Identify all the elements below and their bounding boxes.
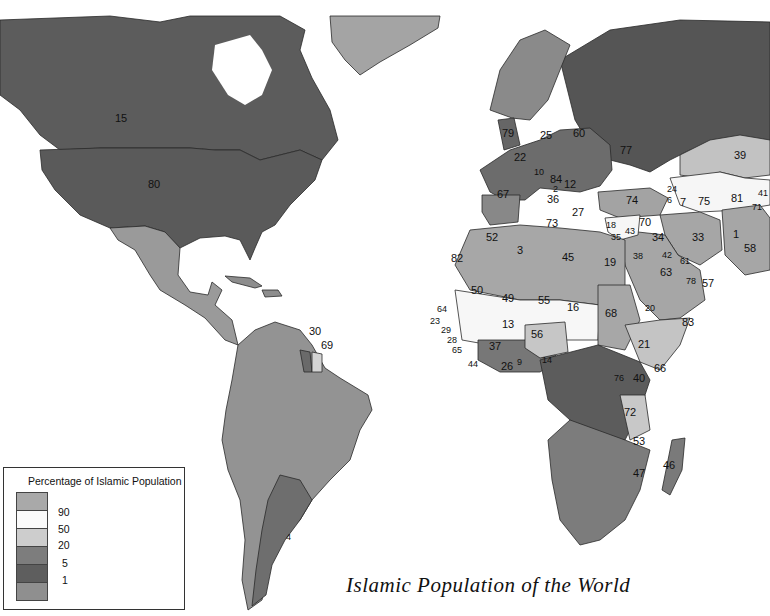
label-malawi: 47 (633, 467, 645, 479)
label-western-sahara: 82 (451, 252, 463, 264)
label-albania: 2 (553, 184, 558, 194)
label-togo: 9 (517, 357, 522, 367)
label-lebanon: 35 (611, 232, 621, 242)
label-algeria: 3 (517, 244, 523, 256)
label-turkey: 74 (626, 194, 638, 206)
label-trinidad: 30 (309, 325, 321, 337)
label-bulgaria: 12 (564, 178, 576, 190)
label-niger: 55 (538, 294, 550, 306)
label-kenya: 40 (633, 372, 645, 384)
label-somalia: 66 (654, 362, 666, 374)
label-jordan: 38 (633, 251, 643, 261)
legend-swatch-over-90 (17, 493, 47, 511)
label-chad: 16 (567, 301, 579, 313)
label-ethiopia: 21 (638, 338, 650, 350)
label-uganda: 76 (614, 373, 624, 383)
legend-swatch-1-5 (17, 565, 47, 583)
label-eritrea: 20 (645, 303, 655, 313)
label-tanzania: 72 (624, 406, 636, 418)
label-kuwait: 42 (662, 250, 672, 260)
label-ukraine: 77 (620, 144, 632, 156)
label-slovenia: 10 (534, 167, 544, 177)
label-yemen: 83 (682, 316, 694, 328)
label-argentina: 4 (286, 532, 291, 542)
label-pakistan: 58 (744, 242, 756, 254)
label-guinea: 28 (447, 335, 457, 345)
label-saudi-arabia: 63 (660, 266, 672, 278)
label-spain: 67 (497, 188, 509, 200)
label-sierra-leone: 65 (452, 345, 462, 355)
legend-swatch-5-20 (17, 547, 47, 565)
legend-tick-50: 50 (58, 523, 70, 535)
legend-swatches (16, 492, 48, 601)
legend-tick-5: 5 (62, 557, 68, 569)
label-bahrain: 61 (680, 256, 690, 266)
label-germany: 25 (540, 129, 552, 141)
label-canada: 15 (115, 112, 127, 124)
label-georgia: 24 (667, 184, 677, 194)
label-usa: 80 (148, 178, 160, 190)
label-guinea-bissau: 29 (441, 325, 451, 335)
legend-tick-1: 1 (62, 574, 68, 586)
label-nigeria: 56 (531, 328, 543, 340)
label-suriname: 69 (321, 339, 333, 351)
label-libya: 45 (562, 251, 574, 263)
map-title: Islamic Population of the World (346, 573, 630, 598)
legend-swatch-under-1 (17, 583, 47, 600)
label-turkmenistan: 75 (698, 195, 710, 207)
label-sudan: 68 (605, 307, 617, 319)
label-cyprus: 18 (606, 220, 616, 230)
label-tunisia: 73 (546, 217, 558, 229)
label-egypt: 19 (604, 256, 616, 268)
label-senegal: 64 (437, 304, 447, 314)
label-madagascar: 46 (663, 459, 675, 471)
label-tajikistan: 81 (731, 192, 743, 204)
label-tajik-border: 71 (752, 202, 762, 212)
label-burkina-faso: 13 (502, 318, 514, 330)
label-iraq: 34 (652, 231, 664, 243)
label-oman: 57 (702, 277, 714, 289)
legend-title: Percentage of Islamic Population (28, 475, 182, 487)
label-cote-divoire: 37 (489, 340, 501, 352)
label-uk: 79 (502, 127, 514, 139)
label-mozambique: 53 (633, 435, 645, 447)
label-gambia: 23 (430, 316, 440, 326)
label-uae: 78 (686, 276, 696, 286)
label-armenia: 6 (667, 195, 672, 205)
label-iran: 33 (692, 231, 704, 243)
legend-tick-90: 90 (58, 506, 70, 518)
label-liberia: 44 (468, 359, 478, 369)
label-italy: 36 (547, 193, 559, 205)
legend: Percentage of Islamic Population 90 50 2… (3, 467, 185, 610)
legend-swatch-20-50 (17, 529, 47, 547)
legend-tick-20: 20 (58, 539, 70, 551)
label-kyrgyzstan: 41 (758, 188, 768, 198)
label-mauritania: 50 (471, 284, 483, 296)
legend-swatch-50-90 (17, 511, 47, 529)
label-israel: 43 (625, 226, 635, 236)
label-france: 22 (514, 151, 526, 163)
label-afghanistan: 1 (733, 228, 739, 240)
label-ghana: 26 (501, 360, 513, 372)
label-poland: 60 (573, 127, 585, 139)
label-morocco: 52 (486, 231, 498, 243)
label-mali: 49 (502, 292, 514, 304)
label-cameroon: 14 (542, 355, 552, 365)
label-azerbaijan: 7 (680, 196, 686, 208)
label-kazakhstan: 39 (734, 149, 746, 161)
label-syria: 70 (639, 216, 651, 228)
label-greece: 27 (572, 206, 584, 218)
